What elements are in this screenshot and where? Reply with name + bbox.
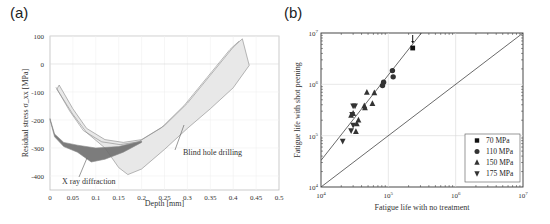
y-axis-label: Fatigue life with shot peening bbox=[293, 62, 302, 158]
legend-label: 150 MPa bbox=[486, 158, 514, 167]
y-tick-label: 104 bbox=[309, 183, 319, 192]
legend-label: 70 MPa bbox=[486, 136, 510, 145]
x-tick-label: 107 bbox=[518, 191, 528, 200]
fatigue-life-chart: 10410410510510610610710770 MPa110 MPa150… bbox=[0, 0, 550, 224]
legend-label: 175 MPa bbox=[486, 169, 514, 178]
y-tick-label: 106 bbox=[309, 80, 319, 89]
x-axis-label: Fatigue life with no treatment bbox=[374, 203, 470, 212]
legend-label: 110 MPa bbox=[486, 147, 514, 156]
x-tick-label: 106 bbox=[451, 191, 461, 200]
series-70-mpa bbox=[410, 46, 415, 51]
y-tick-label: 107 bbox=[309, 29, 319, 38]
x-tick-label: 105 bbox=[384, 191, 394, 200]
y-tick-label: 105 bbox=[309, 132, 319, 141]
x-tick-label: 104 bbox=[316, 191, 326, 200]
legend: 70 MPa110 MPa150 MPa175 MPa bbox=[465, 134, 520, 182]
